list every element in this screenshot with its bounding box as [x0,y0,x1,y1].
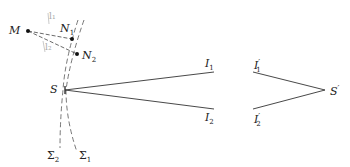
point-m [26,29,30,33]
label-l2: l₂ [45,43,52,52]
label-s-prime: S′ [330,84,339,97]
point-n1 [70,37,74,41]
point-n2 [75,52,79,56]
label-i2-prime: I′2 [254,112,261,128]
label-l1: l₁ [49,12,56,21]
label-i1: I1 [205,58,214,72]
wavefront-sigma-2 [60,20,78,148]
ray-i2p-sp [253,90,325,109]
label-n1: N1 [60,23,74,37]
ray-i1p-sp [253,72,325,90]
wavefront-sigma-1 [66,20,84,152]
label-sigma-1: Σ1 [79,150,91,164]
label-m: M [9,25,20,36]
ray-s-i1 [65,72,214,90]
label-i1-prime: I′1 [254,58,261,74]
ray-s-i2 [65,90,214,109]
label-n2: N2 [82,50,96,64]
label-sigma-2: Σ2 [47,150,59,164]
label-i2: I2 [205,112,214,126]
label-s: S [50,84,58,95]
